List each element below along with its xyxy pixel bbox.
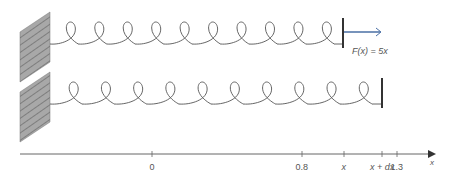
wall-bottom <box>20 72 50 142</box>
stretched-spring-top <box>50 22 343 44</box>
axis-label: x <box>430 158 434 167</box>
spring-diagram <box>0 0 449 181</box>
tick-label: 0.8 <box>296 162 309 172</box>
tick-label: x <box>342 162 347 172</box>
stretched-spring-bottom <box>50 82 382 104</box>
force-arrow <box>344 28 381 36</box>
axis-arrow-icon <box>428 150 436 158</box>
wall-top <box>20 12 50 82</box>
x-axis <box>20 150 436 158</box>
force-label: F(x) = 5x <box>352 46 388 56</box>
tick-label: 1.3 <box>391 162 404 172</box>
tick-label: 0 <box>150 162 155 172</box>
